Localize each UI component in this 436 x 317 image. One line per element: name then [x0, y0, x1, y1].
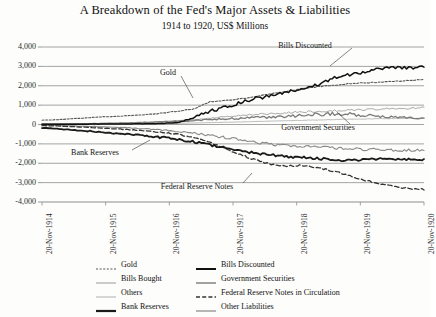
- x-axis-tick-label: 20-Nov-1918: [300, 214, 309, 254]
- data-series-layer: [42, 66, 424, 190]
- x-axis-tick-label: 20-Nov-1914: [45, 214, 54, 254]
- y-axis-tick-label: 1,000: [0, 100, 36, 109]
- legend-label: Bills Bought: [121, 275, 162, 283]
- x-axis-tick-label: 20-Nov-1919: [363, 214, 372, 254]
- y-axis-tick-label: 0: [0, 120, 36, 129]
- leader-line: [330, 48, 352, 66]
- legend-item-other-liabilities[interactable]: Other Liabilities: [196, 303, 396, 311]
- leader-line: [181, 76, 193, 98]
- legend-label: Gold: [121, 261, 137, 269]
- x-axis-tick-label: 20-Nov-1916: [172, 214, 181, 254]
- chart-title: A Breakdown of the Fed's Major Assets & …: [0, 3, 430, 18]
- legend-item-government-securities[interactable]: Government Securities: [196, 275, 396, 283]
- legend-label: Others: [121, 289, 142, 297]
- legend-item-bills-bought[interactable]: Bills Bought: [96, 275, 196, 283]
- y-axis-tick-label: 3,000: [0, 61, 36, 70]
- legend-item-others[interactable]: Others: [96, 289, 196, 297]
- chart-subtitle: 1914 to 1920, US$ Millions: [0, 21, 430, 31]
- chart-svg: [0, 34, 430, 206]
- series-line-federal-reserve-notes-in-circulation: [42, 126, 424, 190]
- annotation-federal-reserve-notes: Federal Reserve Notes: [161, 182, 233, 191]
- legend-item-bills-discounted[interactable]: Bills Discounted: [196, 261, 396, 269]
- legend-label: Bank Reserves: [121, 303, 169, 311]
- x-axis-tick-label: 20-Nov-1920: [427, 214, 436, 254]
- y-axis-tick-label: -2,000: [0, 158, 36, 167]
- y-axis-tick-label: -3,000: [0, 178, 36, 187]
- annotation-bills-discounted: Bills Discounted: [278, 41, 332, 50]
- leader-line: [132, 140, 150, 150]
- leader-line: [243, 173, 252, 183]
- legend-label: Federal Reserve Notes in Circulation: [221, 289, 340, 297]
- x-axis-tick-label: 20-Nov-1915: [109, 214, 118, 254]
- annotation-bank-reserves: Bank Reserves: [71, 148, 119, 157]
- y-axis-tick-label: -1,000: [0, 139, 36, 148]
- annotation-government-securities: Government Securities: [281, 123, 355, 132]
- legend-item-bank-reserves[interactable]: Bank Reserves: [96, 303, 196, 311]
- legend-label: Bills Discounted: [221, 261, 275, 269]
- x-axis-tick-label: 20-Nov-1917: [236, 214, 245, 254]
- plot-area: [0, 34, 430, 206]
- legend-label: Government Securities: [221, 275, 295, 283]
- y-axis-tick-label: 2,000: [0, 81, 36, 90]
- annotation-gold: Gold: [160, 68, 176, 77]
- chart-legend: GoldBills DiscountedBills BoughtGovernme…: [96, 258, 396, 314]
- y-axis-tick-label: -4,000: [0, 197, 36, 206]
- y-axis-tick-label: 4,000: [0, 42, 36, 51]
- legend-label: Other Liabilities: [221, 303, 274, 311]
- legend-item-gold[interactable]: Gold: [96, 261, 196, 269]
- legend-item-federal-reserve-notes-in-circulation[interactable]: Federal Reserve Notes in Circulation: [196, 289, 396, 297]
